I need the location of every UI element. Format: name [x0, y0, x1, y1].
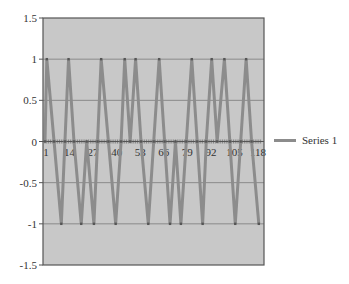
y-tick-label: -1.5 [20, 259, 38, 271]
legend-label-series-1: Series 1 [302, 134, 337, 146]
y-tick-label: -1 [28, 218, 37, 230]
y-tick-label: 0.5 [23, 94, 37, 106]
legend: Series 1 [274, 134, 337, 146]
y-tick-label: 0 [32, 136, 38, 148]
x-tick-label: 1 [43, 146, 49, 158]
y-tick-label: 1.5 [23, 12, 37, 24]
y-tick-label: 1 [32, 53, 38, 65]
legend-line-icon [274, 139, 296, 142]
x-tick-label: 79 [182, 146, 194, 158]
y-tick-label: -0.5 [20, 177, 38, 189]
y-axis-labels: 1.510.50-0.5-1-1.5 [20, 12, 38, 271]
